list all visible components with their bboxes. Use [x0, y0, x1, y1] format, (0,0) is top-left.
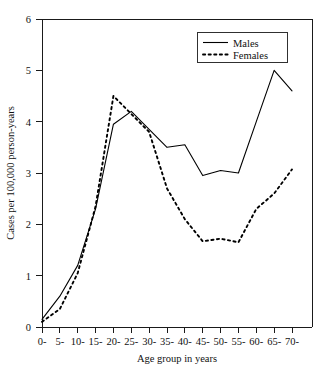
y-axis-title: Cases per 100,000 person-years: [5, 106, 16, 240]
x-tick-label-6: 30-: [142, 336, 157, 347]
series-line-females: [42, 96, 292, 322]
x-axis-title: Age group in years: [137, 353, 217, 364]
x-tick-label-12: 60-: [249, 336, 264, 347]
x-tick-label-3: 15-: [89, 336, 104, 347]
chart-legend: Males Females: [198, 33, 288, 63]
legend-label-males: Males: [233, 38, 259, 49]
y-tick-label-0: 0: [26, 322, 31, 333]
y-axis-ticks: [36, 19, 42, 327]
line-chart: 6 5 4 3 2 1 0 Cases per 100,000 person-y…: [0, 0, 328, 371]
x-tick-label-5: 25-: [124, 336, 139, 347]
series-line-males: [42, 70, 292, 319]
x-tick-label-0: 0-: [38, 336, 47, 347]
y-tick-label-4: 4: [26, 117, 32, 128]
x-tick-label-1: 5-: [55, 336, 64, 347]
x-tick-label-13: 65-: [267, 336, 282, 347]
x-tick-label-9: 45-: [196, 336, 211, 347]
x-tick-label-2: 10-: [71, 336, 86, 347]
y-tick-label-3: 3: [26, 168, 31, 179]
chart-figure: 6 5 4 3 2 1 0 Cases per 100,000 person-y…: [0, 0, 328, 371]
x-axis-ticks: [42, 327, 292, 333]
y-tick-label-1: 1: [26, 271, 31, 282]
y-tick-label-2: 2: [26, 219, 31, 230]
x-tick-label-4: 20-: [106, 336, 121, 347]
x-tick-label-8: 40-: [178, 336, 193, 347]
x-tick-label-10: 50-: [214, 336, 229, 347]
x-tick-label-14: 70-: [285, 336, 300, 347]
x-tick-label-7: 35-: [160, 336, 175, 347]
y-tick-label-6: 6: [26, 14, 31, 25]
legend-label-females: Females: [233, 50, 268, 61]
x-tick-label-11: 55-: [231, 336, 246, 347]
y-tick-label-5: 5: [26, 65, 31, 76]
